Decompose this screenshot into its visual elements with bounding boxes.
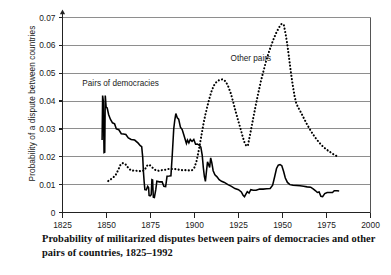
x-axis-ticks-group: 18251850187519001925195019752000 (53, 213, 380, 229)
chart-figure: Probability of a dispute between countri… (0, 0, 391, 228)
y-tick-label-0.05: 0.05 (39, 68, 56, 78)
y-tick-label-0.06: 0.06 (39, 40, 56, 50)
caption-line-1: Probability of militarized disputes betw… (42, 233, 349, 244)
y-axis-title: Probability of a dispute between countri… (28, 9, 37, 199)
y-tick-label-0.01: 0.01 (39, 180, 56, 190)
x-tick-label-2000: 2000 (361, 220, 380, 228)
x-tick-label-1950: 1950 (273, 220, 292, 228)
y-axis-ticks-group: 00.010.020.030.040.050.060.07 (39, 13, 62, 218)
chart-svg: 00.010.020.030.040.050.060.07 1825185018… (0, 0, 391, 228)
plot-frame (60, 10, 371, 213)
annotation-pairs-of-democracies: Pairs of democracies (82, 79, 158, 88)
figure-caption: Probability of militarized disputes betw… (42, 232, 384, 259)
data-series-group (102, 24, 339, 198)
x-tick-label-1925: 1925 (229, 220, 248, 228)
x-tick-label-1875: 1875 (141, 220, 160, 228)
annotations-group: Pairs of democraciesOther pairs (82, 54, 271, 88)
series-line-pairs-of-democracies (102, 96, 339, 198)
annotation-other-pairs: Other pairs (231, 54, 272, 63)
y-tick-label-0: 0 (51, 208, 56, 218)
x-tick-label-1900: 1900 (185, 220, 204, 228)
x-tick-label-1825: 1825 (53, 220, 72, 228)
y-tick-label-0.07: 0.07 (39, 13, 56, 23)
y-tick-label-0.03: 0.03 (39, 124, 56, 134)
figure-container: Probability of a dispute between countri… (0, 0, 391, 275)
y-tick-label-0.02: 0.02 (39, 152, 56, 162)
x-tick-label-1975: 1975 (317, 220, 336, 228)
y-tick-label-0.04: 0.04 (39, 96, 56, 106)
x-tick-label-1850: 1850 (97, 220, 116, 228)
gridlines-group (63, 18, 371, 185)
y-axis-arrow (60, 10, 65, 15)
